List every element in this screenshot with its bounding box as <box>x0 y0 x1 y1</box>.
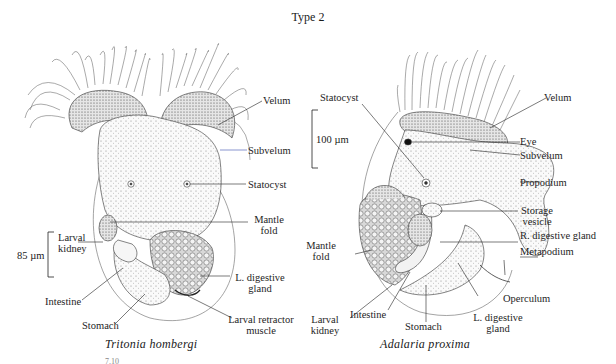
label-l-digestive-gland-right: L. digestive gland <box>470 312 526 334</box>
label-line: kidney <box>307 325 343 336</box>
eye-right <box>405 139 412 145</box>
label-line: Larval <box>307 314 343 325</box>
label-line: fold <box>300 251 342 262</box>
tritonia-figure <box>25 43 262 324</box>
label-eye-right: Eye <box>520 136 536 147</box>
label-mantle-fold-right: Mantle fold <box>300 240 342 262</box>
label-velum-left: Velum <box>263 95 290 106</box>
scale-label-85um: 85 µm <box>17 250 44 261</box>
scale-label-100um: 100 µm <box>316 134 349 145</box>
larval-kidney-left <box>99 215 117 241</box>
label-statocyst-right: Statocyst <box>320 92 359 103</box>
label-stomach-right: Stomach <box>405 321 442 332</box>
species-name-right: Adalaria proxima <box>380 337 470 352</box>
label-larval-kidney-left: Larval kidney <box>58 232 87 254</box>
label-line: gland <box>232 283 288 294</box>
caption-fragment: 7.10 <box>105 357 119 364</box>
label-storage-vesicle: Storage vesicle <box>517 205 557 227</box>
scale-bar-85um <box>48 232 54 277</box>
label-metapodium: Metapodium <box>520 246 574 257</box>
label-propodium: Propodium <box>520 177 567 188</box>
label-line: vesicle <box>517 216 557 227</box>
label-line: L. digestive <box>470 312 526 323</box>
label-intestine-right: Intestine <box>350 309 386 320</box>
label-line: L. digestive <box>232 272 288 283</box>
label-l-digestive-gland-left: L. digestive gland <box>232 272 288 294</box>
label-line: gland <box>470 323 526 334</box>
label-line: Storage <box>517 205 557 216</box>
label-larval-retractor-muscle: Larval retractor muscle <box>222 314 300 336</box>
label-line: Mantle <box>300 240 342 251</box>
label-velum-right: Velum <box>544 92 571 103</box>
body-mass <box>98 115 221 241</box>
label-subvelum-left: Subvelum <box>248 145 291 156</box>
label-line: Larval retractor <box>222 314 300 325</box>
label-line: muscle <box>222 325 300 336</box>
label-mantle-fold-left: Mantle fold <box>249 214 289 236</box>
adalaria-figure <box>312 50 554 322</box>
label-line: kidney <box>58 243 87 254</box>
species-name-left: Tritonia hombergi <box>105 337 197 352</box>
figure-title: Type 2 <box>0 10 616 25</box>
label-intestine-left: Intestine <box>45 296 81 307</box>
label-operculum: Operculum <box>503 293 550 304</box>
label-line: fold <box>249 225 289 236</box>
label-larval-kidney-right: Larval kidney <box>307 314 343 336</box>
label-statocyst-left: Statocyst <box>248 179 287 190</box>
label-subvelum-right: Subvelum <box>520 150 563 161</box>
label-line: Larval <box>58 232 87 243</box>
label-line: Mantle <box>249 214 289 225</box>
label-stomach-left: Stomach <box>82 320 119 331</box>
storage-vesicle-right <box>422 203 442 217</box>
label-r-digestive-gland: R. digestive gland <box>520 230 596 241</box>
